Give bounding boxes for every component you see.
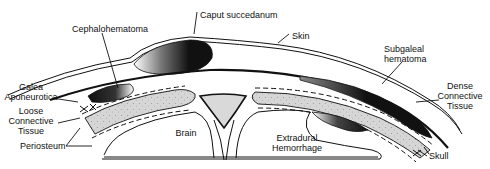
caput-succedanum-region <box>134 40 212 74</box>
label-periosteum: Periosteum <box>20 141 66 151</box>
label-loose-2: Connective <box>8 116 53 126</box>
label-dense-3: Tissue <box>447 101 473 111</box>
label-loose-3: Tissue <box>18 126 44 136</box>
label-galea-1: Galea <box>19 82 43 92</box>
label-galea-2: Aponeurotica <box>4 92 57 102</box>
label-cephalohematoma: Cephalohematoma <box>72 24 148 34</box>
label-loose-1: Loose <box>19 106 44 116</box>
label-brain: Brain <box>175 128 196 138</box>
label-skin: Skin <box>292 31 310 41</box>
label-subgaleal-2: hematoma <box>384 54 427 64</box>
label-dense-1: Dense <box>447 81 473 91</box>
label-dense-2: Connective <box>437 91 482 101</box>
label-skull: Skull <box>429 151 449 161</box>
label-extradural-1: Extradural <box>276 133 317 143</box>
label-extradural-2: Hemorrhage <box>272 143 322 153</box>
scalp-anatomy-diagram: Caput succedanum Cephalohematoma Skin Su… <box>0 0 490 169</box>
label-caput-succedanum: Caput succedanum <box>200 10 278 20</box>
label-subgaleal-1: Subgaleal <box>384 44 424 54</box>
